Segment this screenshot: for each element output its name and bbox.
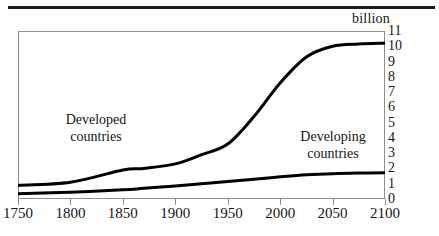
y-tick-label-2: 2 bbox=[388, 161, 410, 175]
x-tick-label-1800: 1800 bbox=[55, 204, 85, 222]
y-tick-label-6: 6 bbox=[388, 100, 410, 114]
x-tick-label-1950: 1950 bbox=[213, 204, 243, 222]
annotation-developed-line2: countries bbox=[46, 128, 146, 145]
annotation-developed-countries: Developed countries bbox=[46, 111, 146, 145]
annotation-developing-countries: Developing countries bbox=[278, 128, 388, 162]
y-tick-label-5: 5 bbox=[388, 116, 410, 130]
y-tick-label-10: 10 bbox=[388, 39, 410, 53]
y-tick-label-1: 1 bbox=[388, 177, 410, 191]
annotation-developed-line1: Developed bbox=[46, 111, 146, 128]
x-tick-label-1850: 1850 bbox=[108, 204, 138, 222]
y-tick-label-8: 8 bbox=[388, 70, 410, 84]
unit-caption: billion bbox=[300, 11, 390, 27]
y-tick-label-11: 11 bbox=[388, 24, 410, 38]
y-tick-label-3: 3 bbox=[388, 146, 410, 160]
x-tick-label-1750: 1750 bbox=[3, 204, 33, 222]
annotation-developing-line1: Developing bbox=[278, 128, 388, 145]
header-rule bbox=[8, 6, 435, 9]
x-tick-label-2000: 2000 bbox=[265, 204, 295, 222]
annotation-developing-line2: countries bbox=[278, 145, 388, 162]
y-tick-label-4: 4 bbox=[388, 131, 410, 145]
y-tick-label-9: 9 bbox=[388, 55, 410, 69]
y-axis: 01234567891011 bbox=[388, 23, 414, 209]
x-tick-label-2100: 2100 bbox=[370, 204, 400, 222]
x-axis: 17501800185019001950200020502100 bbox=[0, 204, 439, 228]
x-tick-label-1900: 1900 bbox=[160, 204, 190, 222]
y-tick-label-7: 7 bbox=[388, 85, 410, 99]
population-projection-figure: billion Developed countries Developing c… bbox=[0, 0, 439, 236]
x-tick-label-2050: 2050 bbox=[318, 204, 348, 222]
